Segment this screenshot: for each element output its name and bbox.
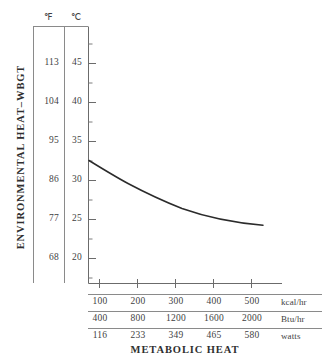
table-cell: 500	[236, 296, 268, 306]
table-cell: 233	[122, 330, 154, 340]
chart-figure: ℉ ℃ 113 104 95 86 77 68 45 40 35 30 25 2…	[0, 0, 324, 359]
table-cell: 200	[122, 296, 154, 306]
table-cell: 1200	[160, 313, 192, 323]
y-axis-title: ENVIRONMENTAL HEAT–WBGT	[15, 65, 26, 250]
data-curve-wbgt-limit	[89, 161, 263, 226]
table-cell: 400	[198, 296, 230, 306]
table-cell: 100	[84, 296, 116, 306]
table-unit-label: kcal/hr	[281, 297, 307, 307]
fahrenheit-scale-header: ℉	[33, 12, 64, 22]
celsius-scale-header: ℃	[64, 12, 88, 22]
table-cell: 116	[84, 330, 116, 340]
y-tick-label-c: 25	[62, 213, 82, 223]
table-cell: 349	[160, 330, 192, 340]
y-tick-label-c: 35	[62, 135, 82, 145]
plot-axes	[89, 27, 283, 284]
y-tick-label-f: 86	[33, 174, 59, 184]
table-unit-label: Btu/hr	[281, 314, 305, 324]
table-unit-label: watts	[281, 331, 301, 341]
y-tick-label-f: 113	[33, 57, 59, 67]
y-axis-title-wrap: ENVIRONMENTAL HEAT–WBGT	[10, 42, 28, 272]
table-cell: 800	[122, 313, 154, 323]
y-tick-label-f: 104	[33, 96, 59, 106]
table-cell: 1600	[198, 313, 230, 323]
x-axis-title: METABOLIC HEAT	[88, 344, 282, 355]
table-cell: 580	[236, 330, 268, 340]
y-tick-label-f: 68	[33, 252, 59, 262]
table-cell: 465	[198, 330, 230, 340]
y-tick-label-c: 30	[62, 174, 82, 184]
y-tick-label-c: 45	[62, 57, 82, 67]
table-cell: 300	[160, 296, 192, 306]
y-tick-label-f: 95	[33, 135, 59, 145]
table-cell: 2000	[236, 313, 268, 323]
y-tick-label-c: 20	[62, 252, 82, 262]
table-cell: 400	[84, 313, 116, 323]
y-tick-label-f: 77	[33, 213, 59, 223]
y-tick-label-c: 40	[62, 96, 82, 106]
